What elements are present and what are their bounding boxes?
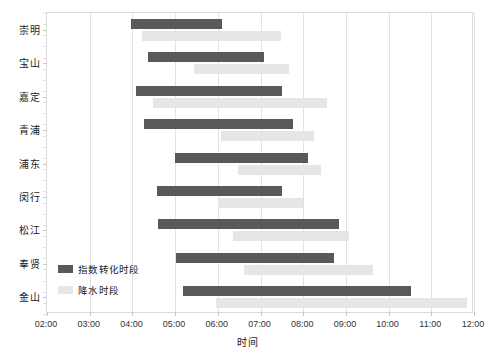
y-tick-label-3: 青浦	[0, 122, 40, 137]
legend-item-dark: 指数转化时段	[58, 262, 140, 276]
y-tick-label-7: 奉贤	[0, 256, 40, 271]
x-tick-label: 04:00	[120, 319, 143, 329]
x-tick-label: 12:00	[462, 319, 485, 329]
x-tick-label: 11:00	[419, 319, 441, 329]
legend-label-dark: 指数转化时段	[78, 262, 140, 276]
x-tick-label: 06:00	[206, 319, 229, 329]
x-tick-label: 05:00	[163, 319, 186, 329]
y-tick-label-6: 松江	[0, 222, 40, 237]
x-tick-label: 02:00	[35, 319, 58, 329]
y-tick-label-1: 宝山	[0, 55, 40, 70]
chart-root: 崇明宝山嘉定青浦浦东闵行松江奉贤金山 02:0003:0004:0005:000…	[0, 0, 495, 354]
legend-label-light: 降水时段	[78, 283, 119, 297]
y-tick-label-5: 闵行	[0, 189, 40, 204]
legend-swatch-icon-light	[58, 286, 73, 294]
y-tick-label-4: 浦东	[0, 156, 40, 171]
x-tick-label: 09:00	[334, 319, 357, 329]
x-tick-label: 08:00	[291, 319, 314, 329]
legend-item-light: 降水时段	[58, 283, 140, 297]
chart-legend: 指数转化时段 降水时段	[58, 262, 140, 304]
legend-swatch-icon-dark	[58, 265, 73, 273]
y-tick-label-8: 金山	[0, 289, 40, 304]
x-tick-label: 03:00	[77, 319, 100, 329]
x-tick-label: 07:00	[248, 319, 271, 329]
x-axis-title: 时间	[0, 334, 495, 349]
y-tick-label-2: 嘉定	[0, 89, 40, 104]
y-tick-label-0: 崇明	[0, 22, 40, 37]
x-tick-label: 10:00	[376, 319, 399, 329]
